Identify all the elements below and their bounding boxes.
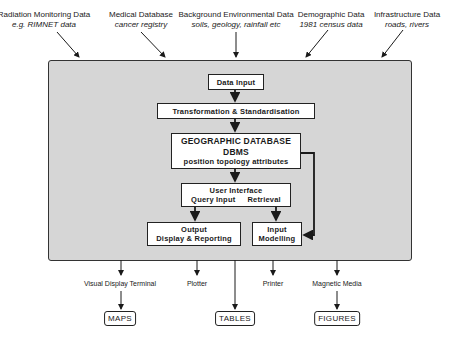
product-maps: MAPS — [104, 311, 136, 326]
device-magnetic-media: Magnetic Media — [312, 280, 361, 287]
device-visual-display-terminal: Visual Display Terminal — [84, 280, 156, 287]
product-tables: TABLES — [215, 311, 255, 326]
product-figures: FIGURES — [314, 311, 360, 326]
flow-arrows — [0, 0, 453, 341]
device-plotter: Plotter — [187, 280, 207, 287]
device-printer: Printer — [263, 280, 284, 287]
source-arrows — [57, 30, 403, 57]
internal-arrows — [195, 90, 314, 235]
